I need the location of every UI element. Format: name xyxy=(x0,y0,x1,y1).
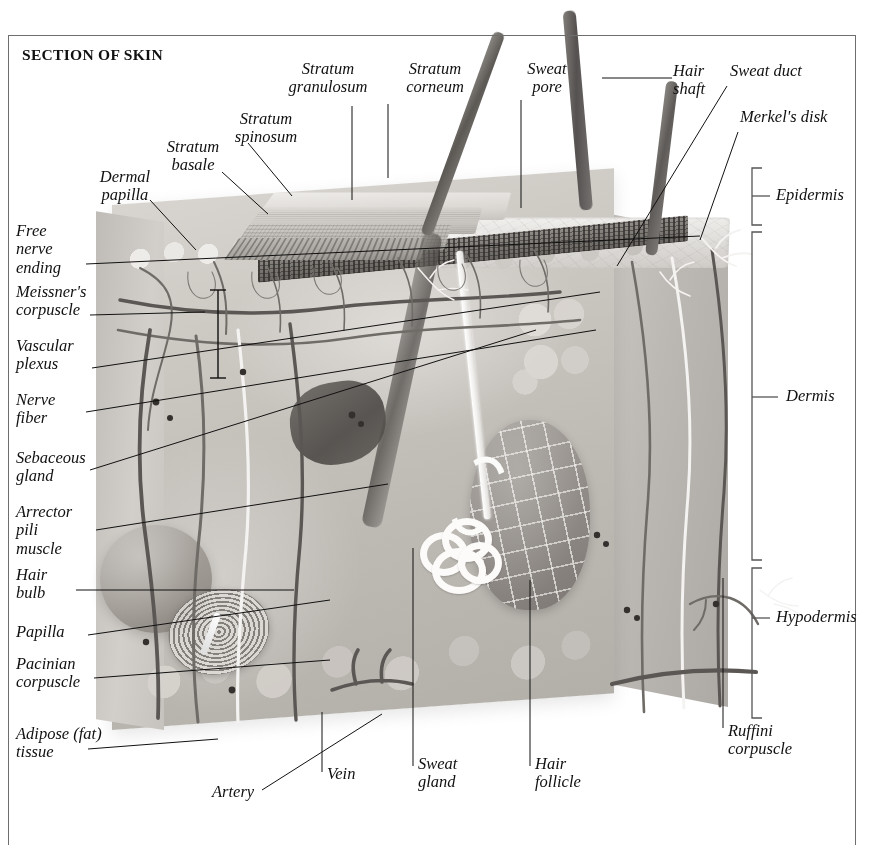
sebaceous-gland-shape xyxy=(505,290,597,400)
label-dermal-papilla: Dermal papilla xyxy=(78,168,172,205)
label-nerve-fiber: Nerve fiber xyxy=(16,391,96,428)
label-papilla: Papilla xyxy=(16,623,96,641)
label-pacinian-corpuscle: Pacinian corpuscle xyxy=(16,655,120,692)
label-artery: Artery xyxy=(212,783,272,801)
label-sweat-pore: Sweat pore xyxy=(511,60,583,97)
label-vascular-plexus: Vascular plexus xyxy=(16,337,112,374)
label-sweat-duct: Sweat duct xyxy=(730,62,860,80)
page-title: SECTION OF SKIN xyxy=(22,46,163,64)
label-hair-bulb: Hair bulb xyxy=(16,566,86,603)
label-hypodermis: Hypodermis xyxy=(776,608,895,626)
block-lateral-face xyxy=(600,212,728,707)
label-epidermis: Epidermis xyxy=(776,186,886,204)
label-ruffini-corpuscle: Ruffini corpuscle xyxy=(728,722,838,759)
label-sebaceous-gland: Sebaceous gland xyxy=(16,449,120,486)
sweat-gland-coil xyxy=(418,516,496,586)
label-free-nerve-ending: Free nerve ending xyxy=(16,222,96,277)
label-vein: Vein xyxy=(327,765,381,783)
label-hair-shaft: Hair shaft xyxy=(673,62,735,99)
label-meissners-corpuscle: Meissner's corpuscle xyxy=(16,283,126,320)
label-adipose-tissue: Adipose (fat) tissue xyxy=(16,725,136,762)
label-stratum-granulosum: Stratum granulosum xyxy=(272,60,384,97)
coil-ring xyxy=(458,542,502,584)
label-arrector-pili-muscle: Arrector pili muscle xyxy=(16,503,102,558)
label-hair-follicle: Hair follicle xyxy=(535,755,605,792)
label-sweat-gland: Sweat gland xyxy=(418,755,490,792)
label-dermis: Dermis xyxy=(786,387,886,405)
label-stratum-corneum: Stratum corneum xyxy=(386,60,484,97)
label-merkels-disk: Merkel's disk xyxy=(740,108,880,126)
layer-stratum-basale xyxy=(224,238,427,260)
